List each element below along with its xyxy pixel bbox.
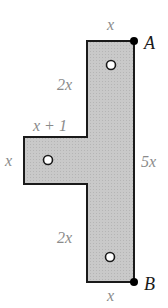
label-point-a: A [143,33,156,53]
t-shaped-region [24,41,134,282]
label-upper-left-height: 2x [57,76,72,93]
label-bottom-width: x [106,287,114,304]
label-arm-height: x [4,152,12,169]
hole-upper [107,61,116,70]
label-top-width: x [106,16,114,33]
hole-lower [106,253,115,262]
label-arm-width: x + 1 [32,117,67,134]
point-a-dot [130,37,138,45]
label-right-height: 5x [141,153,156,170]
hole-left [44,156,53,165]
point-b-dot [130,278,138,286]
t-shape-diagram: x 2x x + 1 x 5x 2x x A B [0,0,168,308]
label-lower-left-height: 2x [57,229,72,246]
label-point-b: B [144,274,155,294]
